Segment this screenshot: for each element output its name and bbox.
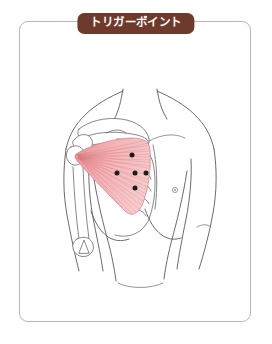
elbow-joint-shape bbox=[73, 237, 94, 256]
trigger-point-dot bbox=[144, 171, 149, 176]
trigger-point-dot bbox=[133, 186, 138, 191]
trigger-point-dot bbox=[130, 153, 135, 158]
nipple-right-icon bbox=[172, 187, 177, 192]
trigger-point-figure-panel: トリガーポイント bbox=[0, 0, 272, 344]
humerus-shaft-left bbox=[73, 167, 79, 239]
trigger-point-dot bbox=[133, 171, 138, 176]
arm-right-inner bbox=[177, 159, 191, 269]
elbow-right-crease bbox=[197, 225, 211, 227]
humerus-shaft-right bbox=[83, 167, 89, 239]
neck-left-line bbox=[114, 89, 123, 120]
breast-right-upper-contour bbox=[149, 135, 185, 141]
shoulder-right-slope bbox=[157, 91, 214, 149]
anatomy-illustration bbox=[19, 21, 251, 322]
panel-title-badge: トリガーポイント bbox=[77, 13, 194, 34]
waist-contour bbox=[118, 283, 163, 288]
nipple-right-center-icon bbox=[174, 189, 176, 191]
arm-right-outer bbox=[199, 149, 216, 269]
pectoralis-minor-muscle-group bbox=[75, 138, 153, 216]
trigger-point-dot bbox=[115, 171, 120, 176]
